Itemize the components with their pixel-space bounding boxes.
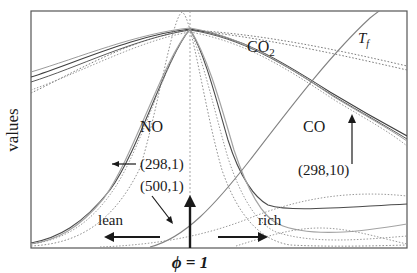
annotation-500-1: (500,1) (140, 178, 184, 195)
chart-svg: values (0, 0, 417, 273)
y-axis-label: values (3, 108, 22, 151)
series-label-co: CO (303, 118, 325, 135)
region-label-rich: rich (258, 212, 282, 228)
phi-equals-one-label: ϕ = 1 (172, 253, 209, 272)
chart-figure: values (0, 0, 417, 273)
region-label-lean: lean (98, 212, 123, 228)
annotation-298-1: (298,1) (140, 156, 184, 173)
annotation-298-10: (298,10) (298, 162, 349, 179)
series-label-no: NO (140, 118, 163, 135)
